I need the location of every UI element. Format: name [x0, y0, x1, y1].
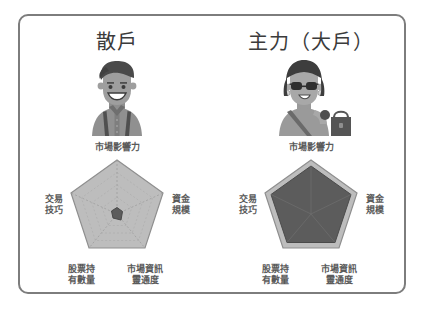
axis-label-capital-scale-right: 資金 規模: [358, 194, 392, 216]
axis-label-market-influence-left: 市場影響力: [20, 142, 214, 153]
axis-label-market-influence-right: 市場影響力: [214, 142, 408, 153]
avatar-major-player: [214, 60, 408, 136]
axis-label-share-holdings-left: 股票持 有數量: [58, 264, 104, 286]
female-major-player-icon: [263, 60, 359, 136]
axis-label-trading-skill-left: 交易 技巧: [37, 194, 71, 216]
panel-retail-investor: 散戶: [20, 16, 214, 296]
axis-label-market-info-left: 市場資訊 靈通度: [116, 264, 174, 286]
panel-title-retail: 散戶: [20, 30, 214, 54]
radar-svg-retail: [67, 156, 167, 260]
axis-label-capital-scale-left: 資金 規模: [164, 194, 198, 216]
avatar-retail-investor: [20, 60, 214, 136]
panel-title-major: 主力（大戶）: [214, 30, 408, 54]
panel-major-player: 主力（大戶）: [214, 16, 408, 296]
comparison-card: 散戶: [18, 14, 406, 294]
axis-label-trading-skill-right: 交易 技巧: [231, 194, 265, 216]
radar-chart-retail-investor: [67, 156, 167, 260]
radar-chart-major-player: [261, 156, 361, 260]
axis-label-market-info-right: 市場資訊 靈通度: [310, 264, 368, 286]
infographic-canvas: 散戶: [0, 0, 423, 314]
radar-svg-major: [261, 156, 361, 260]
male-retail-investor-icon: [75, 60, 159, 136]
axis-label-share-holdings-right: 股票持 有數量: [252, 264, 298, 286]
